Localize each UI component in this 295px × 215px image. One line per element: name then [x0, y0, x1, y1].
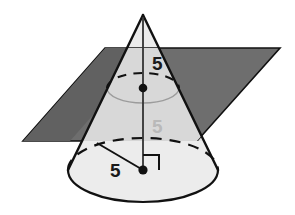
figure-canvas: 5 5 5	[0, 0, 295, 215]
base-center-dot	[138, 165, 147, 174]
cone-lower-front	[0, 141, 295, 215]
label-height-lower: 5	[152, 116, 163, 137]
cone-below-plane-fill	[0, 141, 295, 215]
label-height-upper: 5	[152, 53, 163, 74]
cone-plane-diagram: 5 5 5	[0, 0, 295, 215]
label-radius: 5	[110, 160, 121, 181]
cross-section-center-dot	[139, 84, 148, 93]
